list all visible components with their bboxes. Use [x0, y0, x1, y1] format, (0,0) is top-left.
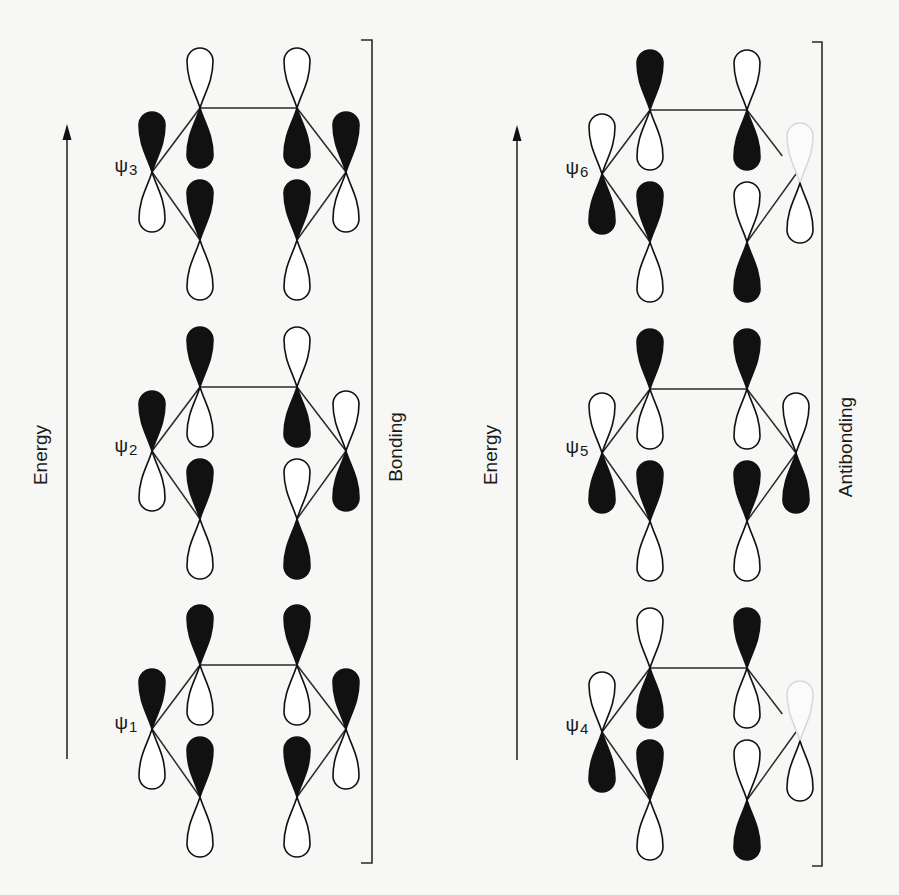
- group-label-bonding: Bonding: [386, 412, 405, 482]
- p-orbital-lobe-upper-l: [589, 393, 615, 453]
- p-orbital-lobe-lower-tl: [637, 389, 663, 449]
- p-orbital-lobe-upper-bl: [637, 740, 663, 800]
- p-orbital-lobe-upper-tr: [734, 50, 760, 110]
- p-orbital-lobe-lower-tr: [284, 387, 310, 447]
- p-orbital-lobe-lower-tr: [734, 110, 760, 170]
- p-orbital-lobe-lower-r: [783, 453, 809, 513]
- p-orbital-lobe-upper-tr: [284, 48, 310, 108]
- p-orbital-lobe-upper-br: [284, 737, 310, 797]
- p-orbital-lobe-lower-bl: [637, 242, 663, 302]
- panel-bonding: [63, 40, 373, 863]
- p-orbital-lobe-lower-r: [787, 183, 813, 243]
- p-orbital-lobe-lower-bl: [187, 797, 213, 857]
- p-orbital-lobe-lower-l: [589, 732, 615, 792]
- p-orbital-lobe-lower-l: [139, 729, 165, 789]
- psi-symbol: ψ: [566, 157, 580, 178]
- p-orbital-lobe-upper-br: [734, 461, 760, 521]
- orbital-label-psi1: ψ1: [115, 713, 138, 734]
- p-orbital-lobe-upper-r: [333, 112, 359, 172]
- p-orbital-lobe-upper-br: [284, 459, 310, 519]
- p-orbital-lobe-lower-br: [734, 521, 760, 581]
- p-orbital-lobe-upper-l: [139, 669, 165, 729]
- psi-index: 6: [580, 163, 588, 180]
- arrow-up-icon: [63, 124, 72, 140]
- orbital-psi1: [139, 605, 359, 857]
- p-orbital-lobe-upper-tl: [187, 327, 213, 387]
- p-orbital-lobe-lower-r: [333, 172, 359, 232]
- energy-axis-label: Energy: [31, 425, 50, 485]
- p-orbital-lobe-lower-l: [589, 174, 615, 234]
- orbital-psi5: [589, 329, 809, 581]
- orbital-label-psi3: ψ3: [115, 156, 138, 177]
- p-orbital-lobe-lower-bl: [637, 800, 663, 860]
- orbital-label-psi5: ψ5: [566, 437, 589, 458]
- p-orbital-lobe-upper-tr: [734, 329, 760, 389]
- p-orbital-lobe-lower-tl: [187, 387, 213, 447]
- psi-symbol: ψ: [115, 155, 129, 176]
- p-orbital-lobe-upper-br: [284, 180, 310, 240]
- p-orbital-lobe-upper-l: [589, 672, 615, 732]
- p-orbital-lobe-lower-tl: [187, 108, 213, 168]
- p-orbital-lobe-upper-tl: [187, 605, 213, 665]
- psi-index: 3: [129, 161, 137, 178]
- p-orbital-lobe-lower-r: [333, 451, 359, 511]
- p-orbital-lobe-upper-tr: [284, 605, 310, 665]
- p-orbital-lobe-upper-tl: [637, 50, 663, 110]
- orbital-label-psi6: ψ6: [566, 158, 589, 179]
- p-orbital-lobe-upper-br: [734, 182, 760, 242]
- p-orbital-lobe-upper-tl: [637, 608, 663, 668]
- p-orbital-lobe-lower-tr: [734, 668, 760, 728]
- p-orbital-lobe-lower-r: [333, 729, 359, 789]
- p-orbital-lobe-upper-r: [333, 669, 359, 729]
- orbital-psi6: [589, 50, 813, 302]
- p-orbital-lobe-upper-bl: [187, 459, 213, 519]
- p-orbital-lobe-upper-l: [589, 114, 615, 174]
- psi-symbol: ψ: [115, 712, 129, 733]
- psi-index: 2: [129, 441, 137, 458]
- energy-axis-label: Energy: [481, 425, 500, 485]
- p-orbital-lobe-lower-tl: [637, 110, 663, 170]
- p-orbital-lobe-upper-tr: [284, 327, 310, 387]
- p-orbital-lobe-lower-br: [284, 797, 310, 857]
- group-bracket: [361, 40, 372, 863]
- p-orbital-lobe-upper-r: [787, 123, 813, 183]
- orbital-label-psi2: ψ2: [115, 436, 138, 457]
- p-orbital-lobe-lower-tr: [734, 389, 760, 449]
- p-orbital-lobe-lower-br: [284, 519, 310, 579]
- p-orbital-lobe-upper-bl: [637, 461, 663, 521]
- p-orbital-lobe-lower-bl: [637, 521, 663, 581]
- p-orbital-lobe-lower-br: [284, 240, 310, 300]
- panel-antibonding: [513, 42, 823, 866]
- arrow-up-icon: [513, 125, 522, 141]
- psi-symbol: ψ: [566, 436, 580, 457]
- p-orbital-lobe-upper-tl: [187, 48, 213, 108]
- orbital-psi3: [139, 48, 359, 300]
- p-orbital-lobe-lower-tr: [284, 108, 310, 168]
- p-orbital-lobe-lower-l: [139, 172, 165, 232]
- p-orbital-lobe-lower-bl: [187, 519, 213, 579]
- p-orbital-lobe-upper-br: [734, 740, 760, 800]
- p-orbital-lobe-upper-l: [139, 391, 165, 451]
- p-orbital-lobe-upper-r: [333, 391, 359, 451]
- p-orbital-lobe-lower-bl: [187, 240, 213, 300]
- p-orbital-lobe-upper-tl: [637, 329, 663, 389]
- p-orbital-lobe-upper-bl: [187, 180, 213, 240]
- psi-symbol: ψ: [566, 714, 580, 735]
- p-orbital-lobe-lower-l: [139, 451, 165, 511]
- orbital-label-psi4: ψ4: [566, 715, 589, 736]
- p-orbital-lobe-lower-br: [734, 242, 760, 302]
- p-orbital-lobe-lower-tr: [284, 665, 310, 725]
- p-orbital-lobe-upper-bl: [637, 182, 663, 242]
- psi-index: 1: [129, 718, 137, 735]
- group-label-antibonding: Antibonding: [836, 397, 855, 497]
- p-orbital-lobe-upper-bl: [187, 737, 213, 797]
- orbital-psi4: [589, 608, 813, 860]
- p-orbital-lobe-lower-tl: [637, 668, 663, 728]
- orbital-psi2: [139, 327, 359, 579]
- p-orbital-lobe-lower-tl: [187, 665, 213, 725]
- p-orbital-lobe-lower-l: [589, 453, 615, 513]
- psi-index: 5: [580, 442, 588, 459]
- p-orbital-lobe-upper-l: [139, 112, 165, 172]
- psi-index: 4: [580, 720, 588, 737]
- p-orbital-lobe-upper-r: [783, 393, 809, 453]
